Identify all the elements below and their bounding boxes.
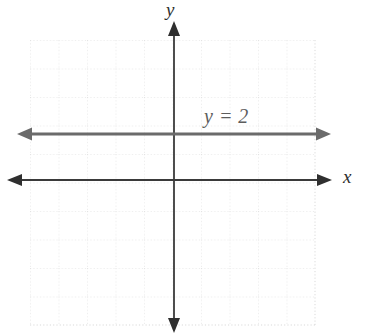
x-axis-right-arrowhead — [317, 174, 332, 186]
y-axis-top-arrowhead — [168, 21, 180, 36]
line-right-arrowhead — [316, 128, 331, 141]
x-axis-left-arrowhead — [7, 174, 22, 186]
line-equation-label: y = 2 — [204, 106, 249, 126]
background-grid — [30, 40, 315, 325]
line-left-arrowhead — [17, 128, 32, 141]
x-axis-label: x — [343, 167, 351, 186]
coordinate-plane-figure: y x y = 2 — [0, 0, 367, 335]
graph-canvas — [0, 0, 367, 335]
y-axis-label: y — [166, 0, 174, 19]
